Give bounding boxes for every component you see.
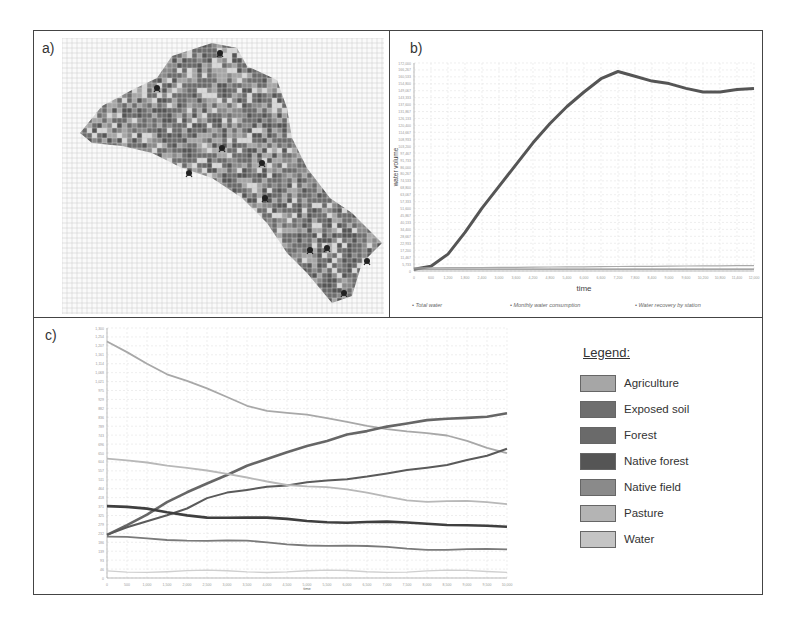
svg-text:975: 975 [98,389,104,393]
svg-text:1,207: 1,207 [95,344,104,348]
svg-text:11,400: 11,400 [732,276,742,280]
svg-text:0: 0 [102,577,104,581]
svg-text:186: 186 [98,541,104,545]
svg-text:74,533: 74,533 [400,179,411,183]
svg-text:836: 836 [98,416,104,420]
x-axis-label: time [576,284,592,293]
svg-text:6,600: 6,600 [597,276,606,280]
svg-text:5,500: 5,500 [323,583,332,587]
svg-text:232: 232 [98,532,104,536]
svg-text:5,400: 5,400 [563,276,572,280]
station-marker-icon [186,170,192,177]
legend-label: Forest [624,429,657,441]
svg-text:0: 0 [106,583,108,587]
svg-text:279: 279 [98,523,104,527]
svg-text:160,533: 160,533 [398,75,411,79]
legend-label: Exposed soil [624,403,689,415]
svg-text:91,733: 91,733 [400,159,411,163]
station-marker-icon [324,245,330,252]
svg-text:1,800: 1,800 [461,276,470,280]
svg-text:8,500: 8,500 [443,583,452,587]
legend-swatch [580,427,616,444]
svg-text:7,000: 7,000 [383,583,392,587]
svg-text:7,200: 7,200 [614,276,623,280]
svg-text:131,867: 131,867 [398,110,411,114]
legend-item: Water [580,526,689,552]
legend-item: Native forest [580,448,689,474]
svg-text:418: 418 [98,496,104,500]
svg-text:1,021: 1,021 [95,380,104,384]
svg-text:1,114: 1,114 [96,362,105,366]
svg-text:57,333: 57,333 [400,200,411,204]
land-use-legend: Legend: AgricultureExposed soilForestNat… [580,345,689,552]
legend-item: Exposed soil [580,396,689,422]
svg-text:103,200: 103,200 [398,145,411,149]
svg-text:6,000: 6,000 [343,583,352,587]
svg-text:11,467: 11,467 [401,256,411,260]
svg-text:2,400: 2,400 [478,276,487,280]
svg-text:120,400: 120,400 [398,124,411,128]
svg-text:650: 650 [98,452,104,456]
svg-text:743: 743 [98,434,104,438]
y-axis-label: water volume [392,147,399,187]
svg-text:6,000: 6,000 [580,276,589,280]
legend-item: Agriculture [580,370,689,396]
svg-text:511: 511 [98,478,104,482]
panel-a-label: a) [42,40,54,56]
station-marker-icon [262,195,268,202]
svg-text:10,000: 10,000 [502,583,513,587]
svg-text:80,267: 80,267 [400,172,411,176]
svg-text:929: 929 [98,398,104,402]
legend-label: Native forest [624,455,689,467]
legend-swatch [580,479,616,496]
svg-text:166,267: 166,267 [398,68,411,72]
svg-text:12,000: 12,000 [749,276,760,280]
legend-item: Native field [580,474,689,500]
svg-text:789: 789 [98,425,104,429]
svg-text:3,600: 3,600 [512,276,521,280]
station-marker-icon [259,160,265,167]
svg-text:9,500: 9,500 [483,583,492,587]
station-marker-icon [217,50,223,57]
svg-text:137,600: 137,600 [398,103,411,107]
svg-text:22,933: 22,933 [400,242,411,246]
svg-text:40,133: 40,133 [400,221,411,225]
svg-text:63,067: 63,067 [400,193,411,197]
svg-text:1,161: 1,161 [95,353,104,357]
legend-label: Water [624,533,654,545]
svg-text:46: 46 [100,568,104,572]
svg-text:51,600: 51,600 [400,207,411,211]
svg-text:3,000: 3,000 [495,276,504,280]
station-marker-icon [307,247,313,254]
panel-b-label: b) [410,40,422,56]
svg-text:10,800: 10,800 [715,276,726,280]
svg-text:8,000: 8,000 [423,583,432,587]
legend-swatch [580,531,616,548]
svg-text:7,500: 7,500 [403,583,412,587]
svg-text:1,000: 1,000 [143,583,152,587]
svg-text:371: 371 [98,505,104,509]
svg-text:7,800: 7,800 [631,276,640,280]
svg-text:600: 600 [428,276,434,280]
svg-text:45,867: 45,867 [400,214,411,218]
chart-legend-entry: • Water recovery by station [635,302,701,308]
legend-label: Native field [624,481,681,493]
legend-item: Pasture [580,500,689,526]
svg-text:5,733: 5,733 [402,263,411,267]
svg-text:557: 557 [98,469,104,473]
svg-text:149,067: 149,067 [398,89,411,93]
svg-text:8,400: 8,400 [648,276,657,280]
land-use-map [62,38,384,314]
panel-divider-horizontal [33,317,763,318]
svg-text:882: 882 [98,407,104,411]
station-marker-icon [341,290,347,297]
station-marker-icon [219,145,225,152]
svg-text:2,000: 2,000 [183,583,192,587]
chart-legend-entry: • Monthly water consumption [510,302,580,308]
svg-text:1,254: 1,254 [95,335,104,339]
svg-text:9,000: 9,000 [463,583,472,587]
svg-text:97,467: 97,467 [400,152,411,156]
svg-text:10,200: 10,200 [698,276,709,280]
svg-text:696: 696 [98,443,104,447]
svg-text:17,200: 17,200 [400,249,411,253]
